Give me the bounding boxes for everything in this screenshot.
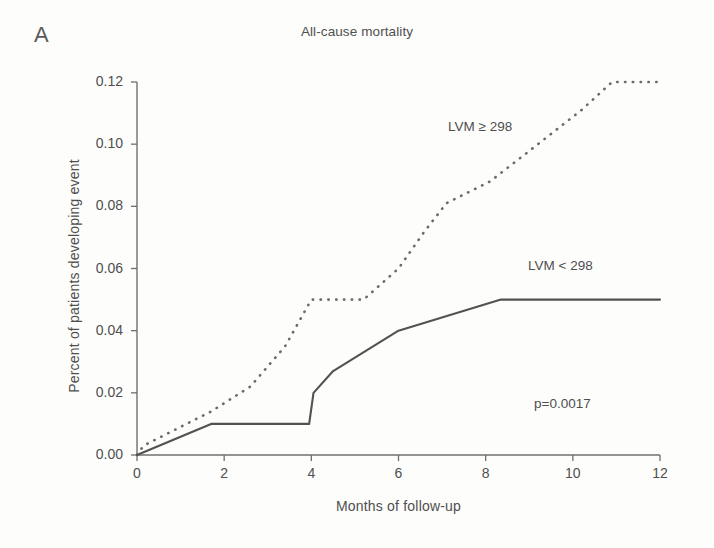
x-tick-label: 2 bbox=[204, 465, 244, 481]
y-tick-label: 0.04 bbox=[63, 322, 123, 338]
series-annotation-low: LVM < 298 bbox=[528, 258, 593, 273]
y-tick-label: 0.12 bbox=[63, 73, 123, 89]
y-tick-label: 0.02 bbox=[63, 384, 123, 400]
x-tick-label: 0 bbox=[117, 465, 157, 481]
series-annotation-high: LVM ≥ 298 bbox=[448, 119, 512, 134]
figure-panel: A All-cause mortality Percent of patient… bbox=[0, 0, 714, 548]
x-tick-label: 4 bbox=[291, 465, 331, 481]
y-tick-label: 0.10 bbox=[63, 135, 123, 151]
series-curve-low-lvm bbox=[137, 300, 660, 455]
y-tick-label: 0.00 bbox=[63, 446, 123, 462]
x-tick-label: 10 bbox=[553, 465, 593, 481]
x-tick-label: 8 bbox=[466, 465, 506, 481]
pvalue-annotation: p=0.0017 bbox=[534, 396, 591, 411]
y-tick-label: 0.06 bbox=[63, 260, 123, 276]
x-tick-label: 6 bbox=[379, 465, 419, 481]
x-tick-label: 12 bbox=[640, 465, 680, 481]
y-tick-label: 0.08 bbox=[63, 197, 123, 213]
